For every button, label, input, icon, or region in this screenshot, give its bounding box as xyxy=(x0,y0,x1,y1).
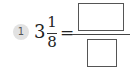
mixed-number-whole: 3 xyxy=(34,23,45,41)
fraction-denominator: 8 xyxy=(47,35,57,50)
problem-number-badge: 1 xyxy=(13,24,29,40)
equals-sign: = xyxy=(60,23,74,41)
answer-denominator-box[interactable] xyxy=(87,39,117,67)
fraction-numerator: 1 xyxy=(47,15,57,30)
answer-numerator-box[interactable] xyxy=(78,3,124,31)
answer-fraction-bar xyxy=(72,34,130,35)
